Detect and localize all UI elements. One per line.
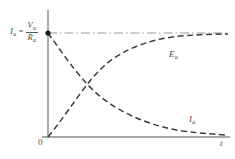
fraction-numerator: Va xyxy=(27,21,37,32)
asymptote-current-symbol: Ia xyxy=(10,27,16,37)
fraction-denominator: Ra xyxy=(27,33,37,44)
current-curve xyxy=(48,33,226,135)
origin-label: 0 xyxy=(38,138,43,147)
emf-curve-label: Ea xyxy=(169,50,178,60)
asymptote-value-label: Ia = Va Ra xyxy=(10,21,38,43)
transient-curve-figure: Ia = Va Ra Ea Ia 0 t xyxy=(0,0,235,159)
voltage-resistance-fraction: Va Ra xyxy=(26,21,38,43)
current-curve-label: Ia xyxy=(189,115,195,125)
emf-curve xyxy=(48,34,228,137)
initial-current-marker xyxy=(45,30,50,35)
x-axis-label: t xyxy=(220,139,223,148)
equals-sign: = xyxy=(18,28,25,36)
